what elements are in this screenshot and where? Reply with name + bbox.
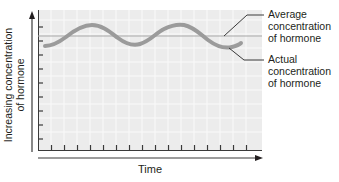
actual-annotation-line1: Actual (268, 53, 331, 65)
y-axis-label: Increasing concentration of hormone (2, 20, 32, 150)
actual-annotation-line2: concentration (268, 65, 331, 77)
y-axis-arrowhead-icon (29, 11, 35, 19)
x-axis-label: Time (125, 163, 175, 175)
actual-annotation: Actual concentration of hormone (268, 53, 331, 89)
average-annotation-line3: of hormone (268, 32, 331, 44)
x-axis-arrowhead-icon (255, 155, 263, 161)
y-axis-label-line1: Increasing concentration (2, 20, 14, 150)
hormone-concentration-diagram: Increasing concentration of hormone Time… (0, 0, 339, 182)
actual-annotation-line3: of hormone (268, 77, 331, 89)
y-axis-label-line2: of hormone (14, 20, 26, 150)
average-annotation-line1: Average (268, 8, 331, 20)
average-annotation-line2: concentration (268, 20, 331, 32)
average-annotation: Average concentration of hormone (268, 8, 331, 44)
